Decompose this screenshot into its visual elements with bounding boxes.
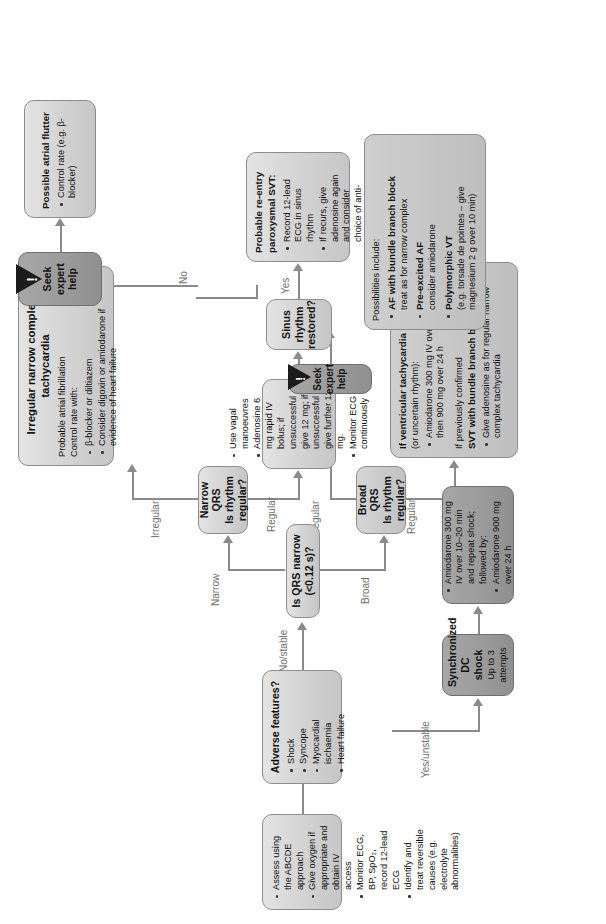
edge-label-regular-narrow: Regular [266, 497, 277, 532]
list-item: Shock [286, 679, 298, 764]
arrowhead-to-irregular-narrow [127, 464, 137, 472]
possibility-rest-1: treat as for narrow complex [399, 199, 409, 310]
edge-label-broad: Broad [360, 577, 371, 604]
arrowhead-to-qrs-narrow [297, 622, 307, 630]
list-item: Pre-excited AF consider amiodarone [414, 143, 439, 310]
list-item: Amiodarone 300 mg IV over 10–20 min and … [443, 495, 490, 584]
connector-sinus-no-v [196, 297, 258, 299]
connector-narrow-irregular-v [132, 498, 198, 500]
connector-qrs-broad-h [384, 543, 386, 571]
possibility-rest-3: (e.g. torsade de pointes – give magnesiu… [456, 186, 478, 310]
arrowhead-to-broad-qrs [379, 535, 389, 543]
probable-svt-title: Probable re-entry paroxysmal SVT: [253, 172, 277, 253]
initial-assessment-list: Assess using the ABCDE approach Give oxy… [271, 823, 462, 901]
possibility-bold-2: Pre-excited AF [414, 242, 425, 310]
probable-svt-box: Probable re-entry paroxysmal SVT: Record… [246, 152, 350, 262]
list-item: Polymorphic VT (e.g. torsade de pointes … [443, 143, 479, 310]
is-qrs-narrow-title: Is QRS narrow (<0.12 s)? [290, 533, 315, 609]
connector-qrs-narrow-up-h [228, 543, 230, 571]
amiodarone-list: Amiodarone 300 mg IV over 10–20 min and … [443, 495, 516, 595]
list-item: Use vagal manoeuvres [228, 388, 252, 449]
vt-head-1: If ventricular tachycardia [397, 333, 408, 449]
synchronised-dc-shock-box: Synchronized DC shock Up to 3 attempts [442, 634, 514, 696]
edge-label-irregular-narrow: Irregular [150, 501, 161, 538]
list-item: Record 12-lead ECG in sinus rhythm [282, 161, 317, 242]
connector-qrs-broad-down [320, 569, 386, 571]
list-item: Syncope [298, 679, 310, 764]
arrowhead-to-vagal [293, 470, 303, 478]
dc-shock-subtitle: Up to 3 attempts [486, 643, 510, 687]
edge-label-regular-broad: Regular [406, 499, 417, 534]
connector-qrs-narrow-up [228, 569, 285, 571]
list-item: Amiodarone 900 mg over 24 h [491, 495, 515, 584]
list-item: Assess using the ABCDE approach [271, 823, 306, 890]
connector-adverse-to-shock-v [392, 730, 478, 732]
edge-label-yes-unstable: Yes/unstable [420, 721, 431, 778]
arrowhead-to-atrial-flutter [55, 218, 65, 226]
connector-adverse-to-shock-h [478, 706, 480, 732]
atrial-flutter-list: Control rate (e.g. β-blocker) [56, 109, 81, 209]
adverse-features-title: Adverse features? [269, 679, 282, 775]
arrowhead-to-vt [449, 460, 459, 468]
edge-label-no-stable: No/stable [278, 630, 289, 672]
arrowhead-to-dc-shock [473, 698, 483, 706]
edge-label-no: No [178, 271, 189, 284]
adverse-features-box: Adverse features? Shock Syncope Myocardi… [262, 670, 342, 784]
arrowhead-to-narrow-qrs [223, 535, 233, 543]
broad-qrs-box: Broad QRS Is rhythm regular? [356, 466, 406, 534]
sinus-rhythm-restored-title: Sinus rhythm restored? [280, 300, 318, 349]
list-item: Identify and treat reversible causes (e.… [403, 823, 462, 890]
arrowhead-to-amiodarone [473, 606, 483, 614]
connector-narrow-irregular-h [132, 472, 134, 500]
possibilities-intro: Possibilities include: [371, 143, 383, 321]
possibility-bold-3: Polymorphic VT [443, 235, 454, 310]
broad-qrs-line2: Is rhythm regular? [381, 475, 406, 525]
irregular-broad-possibilities-box: Possibilities include: AF with bundle br… [364, 134, 486, 330]
arrowhead-to-sinus [293, 351, 303, 359]
list-item: Monitor ECG continuously [348, 388, 372, 449]
is-qrs-narrow-box: Is QRS narrow (<0.12 s)? [286, 524, 320, 618]
initial-assessment-box: Assess using the ABCDE approach Give oxy… [262, 814, 342, 910]
warning-exclamation-icon: ! [24, 277, 39, 282]
narrow-qrs-box: Narrow QRS Is rhythm regular? [198, 466, 248, 534]
atrial-flutter-title: Possible atrial flutter [40, 109, 53, 209]
connector-sinus-yes [298, 271, 300, 299]
connector-sinus-no-h [256, 285, 258, 299]
list-item: Adenosine 6 mg rapid IV bolus; if unsucc… [252, 388, 346, 449]
adverse-features-list: Shock Syncope Myocardial ischaemia Heart… [286, 679, 348, 775]
edge-label-yes: Yes [280, 278, 291, 294]
list-item: Give oxygen if appropriate and obtain IV… [307, 823, 354, 890]
list-item: Monitor ECG, BP, SpO₂, record 12-lead EC… [355, 823, 402, 890]
amiodarone-after-shock-box: Amiodarone 300 mg IV over 10–20 min and … [442, 486, 514, 604]
narrow-qrs-line1: Narrow QRS [198, 475, 223, 525]
list-item: AF with bundle branch block treat as for… [386, 143, 411, 310]
possible-atrial-flutter-box: Possible atrial flutter Control rate (e.… [24, 100, 96, 218]
connector-adverse-to-qrs [302, 630, 304, 670]
list-item: Control rate (e.g. β-blocker) [56, 109, 80, 198]
possibility-bold-1: AF with bundle branch block [386, 176, 397, 310]
seek-expert-help-top-label: Seek expert help [41, 261, 79, 297]
tachycardia-algorithm-diagram: Yes/unstable No/stable Narrow Broad Regu… [0, 0, 606, 924]
possibilities-list: AF with bundle branch block treat as for… [386, 143, 479, 321]
edge-label-narrow: Narrow [210, 574, 221, 606]
arrowhead-to-svt [293, 263, 303, 271]
broad-qrs-line1: Broad QRS [356, 475, 381, 525]
warning-exclamation-icon-2: ! [294, 377, 307, 381]
sinus-rhythm-restored-box: Sinus rhythm restored? [266, 299, 332, 350]
vagal-list: Use vagal manoeuvres Adenosine 6 mg rapi… [228, 388, 372, 460]
connector-narrow-regular-h [298, 478, 300, 500]
list-item: Heart failure [336, 679, 348, 764]
possibility-rest-2: consider amiodarone [427, 224, 437, 310]
connector-seekhelp-to-flutter [60, 226, 62, 252]
narrow-qrs-line2: Is rhythm regular? [223, 475, 248, 525]
connector-shock-to-amiodarone [478, 614, 480, 634]
dc-shock-title: Synchronized DC shock [446, 643, 484, 687]
seek-expert-help-bottom-label: Seek expert help [312, 364, 348, 394]
connector-assess-to-adverse [302, 784, 304, 814]
list-item: Myocardial ischaemia [311, 679, 335, 764]
